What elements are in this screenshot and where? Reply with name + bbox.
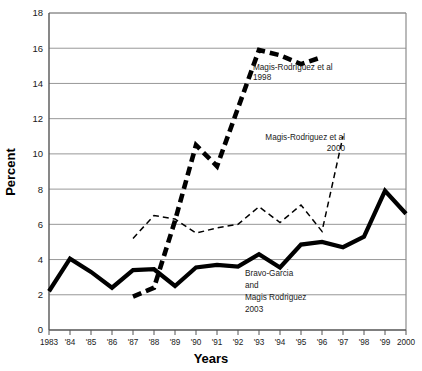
annotation-2000-line-2: 2000: [327, 144, 346, 153]
x-tick-label-9: '92: [233, 338, 244, 347]
y-tick-label-18: 18: [32, 7, 43, 18]
x-tick-label-8: '91: [212, 338, 223, 347]
annotation-1998-line-1: Magis-Rodriguez et al: [253, 63, 333, 72]
annotation-2003-line-2: and: [245, 281, 259, 290]
chart-container: 024681012141618 1983'84'85'86'87'88'89'9…: [0, 0, 422, 371]
y-tick-label-10: 10: [32, 148, 43, 159]
annotation-2003-line-3: Magis Rodriguez: [245, 293, 306, 302]
x-tick-label-0: 1983: [40, 338, 59, 347]
annotation-2003-line-4: 2003: [245, 305, 264, 314]
y-tick-label-0: 0: [38, 324, 43, 335]
x-axis-tick-labels: 1983'84'85'86'87'88'89'90'91'92'93'94'95…: [40, 338, 416, 347]
x-tick-label-14: '97: [338, 338, 349, 347]
y-axis-tick-labels: 024681012141618: [32, 7, 43, 335]
annotation-2003-line-1: Bravo-Garcia: [245, 269, 294, 278]
y-tick-label-8: 8: [38, 184, 43, 195]
y-tick-label-2: 2: [38, 289, 43, 300]
y-tick-label-16: 16: [32, 43, 43, 54]
y-tick-label-6: 6: [38, 219, 43, 230]
x-tick-label-5: '88: [149, 338, 160, 347]
x-tick-label-16: '99: [380, 338, 391, 347]
x-axis-ticks: [49, 330, 406, 335]
y-tick-label-14: 14: [32, 78, 43, 89]
x-tick-label-12: '95: [296, 338, 307, 347]
x-tick-label-6: '89: [170, 338, 181, 347]
x-tick-label-13: '96: [317, 338, 328, 347]
x-tick-label-2: '85: [86, 338, 97, 347]
x-axis-title: Years: [194, 351, 229, 366]
x-tick-label-15: '98: [359, 338, 370, 347]
x-tick-label-4: '87: [128, 338, 139, 347]
annotation-1998-line-2: 1998: [253, 73, 272, 82]
x-tick-label-10: '93: [254, 338, 265, 347]
x-tick-label-7: '90: [191, 338, 202, 347]
x-tick-label-17: 2000: [397, 338, 416, 347]
y-axis-title: Percent: [3, 147, 18, 195]
x-tick-label-1: '84: [65, 338, 76, 347]
y-tick-label-12: 12: [32, 113, 43, 124]
y-tick-label-4: 4: [38, 254, 43, 265]
line-chart: 024681012141618 1983'84'85'86'87'88'89'9…: [0, 0, 422, 371]
x-tick-label-11: '94: [275, 338, 286, 347]
x-tick-label-3: '86: [107, 338, 118, 347]
annotation-2000-line-1: Magis-Rodriguez et al: [265, 133, 345, 142]
